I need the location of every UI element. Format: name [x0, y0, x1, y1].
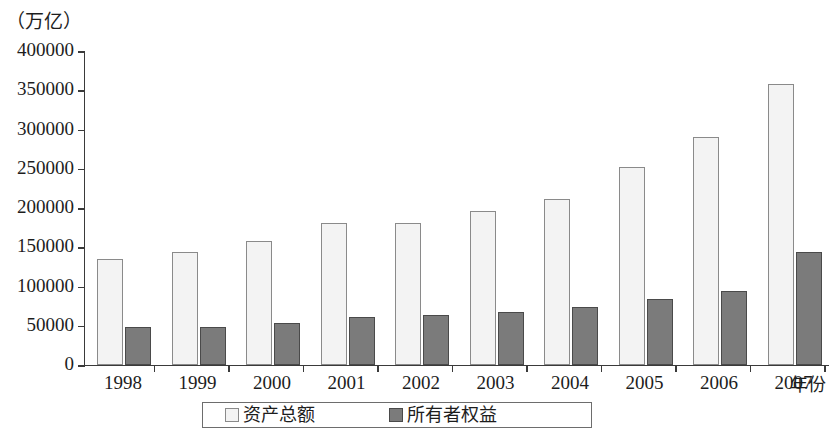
bar-group	[768, 52, 822, 365]
bar-total-assets	[321, 223, 347, 365]
bar-owners-equity	[349, 317, 375, 365]
bar-total-assets	[619, 167, 645, 365]
bar-group	[321, 52, 375, 365]
bar-owners-equity	[200, 327, 226, 365]
x-axis-label: 1998	[93, 372, 153, 394]
x-axis-tick-mark	[154, 365, 156, 372]
bar-chart: （万亿） 40000035000030000025000020000015000…	[0, 0, 831, 429]
legend-item-total-assets: 资产总额	[225, 405, 315, 425]
y-axis-tick-label: 300000	[17, 119, 74, 139]
bar-owners-equity	[423, 315, 449, 365]
bar-total-assets	[544, 199, 570, 365]
bar-group	[97, 52, 151, 365]
legend-item-owners-equity: 所有者权益	[389, 405, 497, 425]
y-axis-tick-label: 400000	[17, 40, 74, 60]
y-axis-tick-label: 0	[65, 354, 75, 374]
legend-label-total-assets: 资产总额	[243, 405, 315, 425]
y-axis-tick-label: 150000	[17, 236, 74, 256]
x-axis-tick-mark	[675, 365, 677, 372]
bar-owners-equity	[498, 312, 524, 365]
y-axis-tick-mark	[78, 130, 85, 132]
legend-swatch-light-icon	[225, 408, 239, 422]
bar-owners-equity	[647, 299, 673, 365]
bar-owners-equity	[721, 291, 747, 365]
x-axis-tick-mark	[228, 365, 230, 372]
y-axis-tick-mark	[78, 287, 85, 289]
legend-swatch-dark-icon	[389, 408, 403, 422]
y-axis-tick-label: 50000	[27, 315, 75, 335]
bar-owners-equity	[125, 327, 151, 365]
x-axis-title: 年份	[790, 374, 826, 396]
bar-owners-equity	[274, 323, 300, 365]
bar-total-assets	[246, 241, 272, 365]
x-axis-tick-mark	[824, 365, 826, 372]
bar-group	[246, 52, 300, 365]
bar-total-assets	[172, 252, 198, 365]
y-axis-tick-mark	[78, 51, 85, 53]
bar-group	[470, 52, 524, 365]
x-axis-label: 2004	[540, 372, 600, 394]
y-axis-unit-label: （万亿）	[6, 6, 82, 33]
plot-area: 4000003500003000002500002000001500001000…	[84, 52, 829, 366]
bar-group	[544, 52, 598, 365]
x-axis-label: 2001	[317, 372, 377, 394]
y-axis-tick-mark	[78, 326, 85, 328]
x-axis-label: 1999	[168, 372, 228, 394]
bar-group	[693, 52, 747, 365]
x-axis-label: 2002	[391, 372, 451, 394]
y-axis-tick-mark	[78, 169, 85, 171]
y-axis-tick-label: 350000	[17, 79, 74, 99]
bar-total-assets	[470, 211, 496, 365]
bar-total-assets	[97, 259, 123, 365]
x-axis-tick-mark	[452, 365, 454, 372]
x-axis-tick-mark	[601, 365, 603, 372]
bar-total-assets	[768, 84, 794, 365]
bar-total-assets	[693, 137, 719, 365]
y-axis-tick-mark	[78, 208, 85, 210]
bar-group	[395, 52, 449, 365]
y-axis-tick-mark	[78, 247, 85, 249]
legend-label-owners-equity: 所有者权益	[407, 405, 497, 425]
y-axis-tick-label: 250000	[17, 158, 74, 178]
bar-group	[619, 52, 673, 365]
x-axis-tick-mark	[526, 365, 528, 372]
x-axis-label: 2005	[615, 372, 675, 394]
legend: 资产总额 所有者权益	[202, 402, 592, 428]
x-axis-tick-mark	[377, 365, 379, 372]
bar-group	[172, 52, 226, 365]
y-axis-tick-mark	[78, 90, 85, 92]
x-axis-label: 2003	[466, 372, 526, 394]
bar-owners-equity	[572, 307, 598, 365]
y-axis-tick-label: 200000	[17, 197, 74, 217]
y-axis-tick-label: 100000	[17, 276, 74, 296]
x-axis-tick-mark	[303, 365, 305, 372]
bar-owners-equity	[796, 252, 822, 365]
x-axis-label: 2000	[242, 372, 302, 394]
y-axis-tick-mark	[78, 365, 85, 367]
bar-total-assets	[395, 223, 421, 365]
x-axis-label: 2006	[689, 372, 749, 394]
x-axis-tick-mark	[750, 365, 752, 372]
